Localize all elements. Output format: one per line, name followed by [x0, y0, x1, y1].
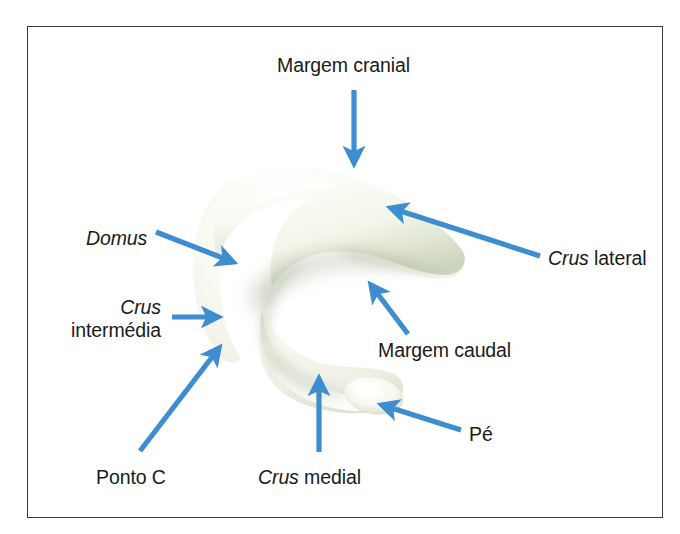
- annotation-label-ponto-c-part-0: Ponto C: [96, 466, 166, 488]
- annotation-arrow-ponto-c: [140, 348, 219, 451]
- annotation-label-crus-medial: Crus medial: [258, 466, 361, 489]
- annotation-label-crus-lateral-part-1: lateral: [589, 247, 647, 269]
- annotation-label-crus-intermedia-part-0: Crus: [48, 296, 161, 319]
- annotation-label-margem-cranial: Margem cranial: [277, 54, 410, 77]
- annotation-label-domus-part-0: Domus: [86, 227, 147, 249]
- alar-cartilage-specimen: [193, 166, 465, 419]
- annotation-label-ponto-c: Ponto C: [96, 466, 166, 489]
- annotation-label-pe-part-0: Pé: [469, 423, 493, 445]
- annotation-label-crus-lateral: Crus lateral: [548, 247, 647, 270]
- annotation-label-margem-caudal-part-0: Margem caudal: [378, 339, 511, 361]
- annotation-label-margem-caudal: Margem caudal: [378, 339, 511, 362]
- annotation-arrow-margem-caudal: [371, 285, 408, 334]
- annotation-label-domus: Domus: [86, 227, 147, 250]
- annotation-label-margem-cranial-part-0: Margem cranial: [277, 54, 410, 76]
- annotation-arrow-pe: [382, 405, 461, 430]
- annotation-label-pe: Pé: [469, 423, 493, 446]
- annotation-label-crus-intermedia: Crusintermédia: [48, 296, 161, 342]
- annotation-label-crus-intermedia-part-1: intermédia: [48, 319, 161, 342]
- figure-root: Margem cranialDomusCrus lateralCrusinter…: [0, 0, 680, 534]
- annotation-label-crus-lateral-part-0: Crus: [548, 247, 589, 269]
- annotation-label-crus-medial-part-0: Crus: [258, 466, 299, 488]
- annotation-label-crus-medial-part-1: medial: [299, 466, 361, 488]
